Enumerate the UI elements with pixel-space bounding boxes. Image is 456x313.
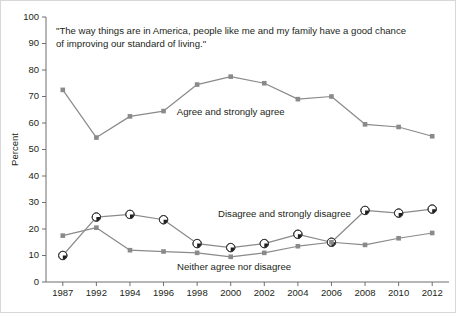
y-axis-tick-label: 10 (28, 249, 39, 260)
data-point (262, 81, 267, 86)
data-point (227, 243, 235, 251)
data-point (329, 94, 334, 99)
data-point (260, 239, 268, 247)
data-point (94, 135, 99, 140)
data-point (159, 216, 167, 224)
square-marker (195, 251, 200, 256)
data-point (329, 240, 334, 245)
x-axis-tick-label: 1992 (86, 287, 107, 298)
y-axis-tick-label: 60 (28, 117, 39, 128)
y-axis-tick-label: 0 (34, 276, 39, 287)
y-axis-title-text: Percent (9, 133, 20, 166)
square-marker (228, 255, 233, 260)
data-point (396, 236, 401, 241)
y-axis-title: Percent (9, 133, 20, 166)
square-marker (161, 109, 166, 114)
axis-lines (46, 17, 449, 282)
x-axis-tick-label: 2010 (388, 287, 409, 298)
square-marker (363, 122, 368, 127)
square-marker (60, 233, 65, 238)
data-point (394, 209, 402, 217)
square-marker (329, 94, 334, 99)
y-axis-tick-labels: 0102030405060708090100 (23, 11, 39, 287)
data-series-lines (63, 77, 432, 257)
square-marker (94, 225, 99, 230)
data-point (195, 251, 200, 256)
y-axis-tick-label: 100 (23, 11, 39, 22)
series-line-3 (63, 228, 432, 257)
x-axis-tick-label: 2002 (254, 287, 275, 298)
square-marker (262, 251, 267, 256)
y-axis-tick-label: 90 (28, 37, 39, 48)
square-marker (128, 248, 133, 253)
x-axis-tick-label: 1996 (153, 287, 174, 298)
data-point (428, 205, 436, 213)
square-marker (296, 97, 301, 102)
data-point (262, 251, 267, 256)
data-point (193, 239, 201, 247)
data-point (92, 213, 100, 221)
data-point (430, 231, 435, 236)
data-point (128, 114, 133, 119)
data-point (161, 249, 166, 254)
data-point (430, 134, 435, 139)
series-annotation-3: Neither agree nor disagree (177, 261, 291, 272)
data-point (126, 210, 134, 218)
square-marker (262, 81, 267, 86)
x-axis-tick-label: 1987 (52, 287, 73, 298)
chart-quote-title: "The way things are in America, people l… (56, 25, 406, 49)
square-marker (195, 82, 200, 87)
x-axis-tick-label: 2000 (220, 287, 241, 298)
data-point (363, 122, 368, 127)
square-marker (396, 236, 401, 241)
chart-container: 0102030405060708090100 19871992199419961… (0, 0, 456, 313)
x-axis-tick-labels: 1987199219941996199820002002200420062008… (52, 287, 443, 298)
data-point (195, 82, 200, 87)
line-chart: 0102030405060708090100 19871992199419961… (0, 0, 456, 313)
y-axis-tick-label: 70 (28, 90, 39, 101)
y-axis-tick-label: 50 (28, 143, 39, 154)
square-marker (128, 114, 133, 119)
x-axis-tick-label: 2004 (287, 287, 308, 298)
data-point (296, 97, 301, 102)
data-series-markers (59, 74, 437, 259)
data-point (94, 225, 99, 230)
square-marker (430, 231, 435, 236)
square-marker (430, 134, 435, 139)
square-marker (161, 249, 166, 254)
x-axis-tick-label: 1998 (187, 287, 208, 298)
data-point (363, 243, 368, 248)
square-marker (296, 244, 301, 249)
data-point (161, 109, 166, 114)
square-marker (228, 74, 233, 79)
y-axis-tick-label: 80 (28, 64, 39, 75)
data-point (396, 125, 401, 130)
series-annotation-2: Disagree and strongly disagree (218, 208, 351, 219)
square-marker (329, 240, 334, 245)
quote-line-2: of improving our standard of living." (56, 38, 206, 49)
square-marker (60, 88, 65, 93)
square-marker (94, 135, 99, 140)
data-point (228, 74, 233, 79)
quote-line-1: "The way things are in America, people l… (56, 25, 406, 36)
x-axis-tick-label: 1994 (119, 287, 140, 298)
y-axis-tick-label: 40 (28, 170, 39, 181)
series-annotation-1: Agree and strongly agree (177, 106, 285, 117)
data-point (361, 206, 369, 214)
square-marker (396, 125, 401, 130)
y-axis-tick-label: 20 (28, 223, 39, 234)
square-marker (363, 243, 368, 248)
data-point (294, 230, 302, 238)
x-axis-tick-label: 2012 (422, 287, 443, 298)
y-axis-tick-label: 30 (28, 196, 39, 207)
data-point (228, 255, 233, 260)
data-point (60, 88, 65, 93)
x-axis-tick-label: 2008 (354, 287, 375, 298)
data-point (128, 248, 133, 253)
data-point (60, 233, 65, 238)
x-axis-tick-label: 2006 (321, 287, 342, 298)
data-point (296, 244, 301, 249)
data-point (59, 251, 67, 259)
